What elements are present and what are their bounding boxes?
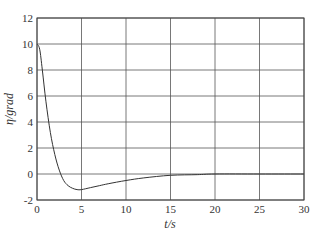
y-tick-label: -2 xyxy=(24,194,33,206)
x-tick-label: 25 xyxy=(254,203,266,215)
x-tick-label: 0 xyxy=(34,203,40,215)
x-axis-label: t/s xyxy=(164,217,176,231)
x-tick-label: 20 xyxy=(210,203,222,215)
y-tick-label: 2 xyxy=(28,142,34,154)
x-tick-label: 15 xyxy=(165,203,177,215)
y-tick-labels: -2024681012 xyxy=(22,12,34,206)
y-tick-label: 0 xyxy=(28,168,34,180)
grid xyxy=(37,18,304,200)
x-tick-label: 30 xyxy=(299,203,311,215)
y-axis-label: η/grad xyxy=(2,92,16,125)
chart: 051015202530 -2024681012 t/s η/grad xyxy=(0,0,318,236)
x-tick-label: 10 xyxy=(121,203,133,215)
y-tick-label: 12 xyxy=(22,12,33,24)
x-tick-label: 5 xyxy=(79,203,85,215)
y-tick-label: 8 xyxy=(28,64,34,76)
x-tick-labels: 051015202530 xyxy=(34,203,310,215)
y-tick-label: 6 xyxy=(28,90,34,102)
y-tick-label: 4 xyxy=(28,116,34,128)
y-tick-label: 10 xyxy=(22,38,34,50)
